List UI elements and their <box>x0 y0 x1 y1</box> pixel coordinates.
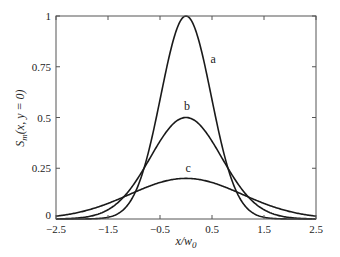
y-tick-label: 0.5 <box>37 112 51 124</box>
x-axis-label: x/w0 <box>174 234 197 250</box>
y-axis-label: Sm(x, y = 0) <box>13 89 29 146</box>
y-tick-label: 0.25 <box>32 162 52 174</box>
y-tick-label: 0 <box>46 209 52 221</box>
y-tick-label: 1 <box>46 10 52 22</box>
x-tick-label: −0.5 <box>150 223 170 235</box>
x-tick-label: 1.5 <box>257 223 271 235</box>
chart: −2.5−1.5−0.50.51.52.500.250.50.751 abc x… <box>0 0 340 257</box>
curve-label-a: a <box>210 52 216 66</box>
tick-labels: −2.5−1.5−0.50.51.52.500.250.50.751 <box>32 10 324 235</box>
curve-labels: abc <box>184 52 216 176</box>
x-tick-label: 2.5 <box>309 223 323 235</box>
curves <box>56 16 316 219</box>
x-tick-label: −1.5 <box>98 223 118 235</box>
curve-c <box>56 178 316 216</box>
y-tick-label: 0.75 <box>32 61 52 73</box>
x-tick-label: −2.5 <box>46 223 66 235</box>
curve-label-b: b <box>184 99 190 113</box>
x-tick-label: 0.5 <box>205 223 219 235</box>
curve-label-c: c <box>185 161 190 175</box>
